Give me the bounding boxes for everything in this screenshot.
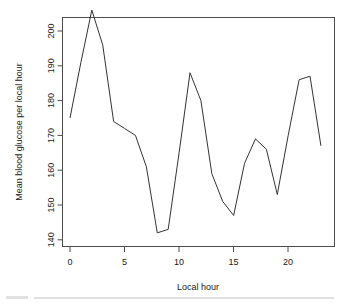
x-tick-label-20: 20 xyxy=(283,257,293,267)
x-tick-label-0: 0 xyxy=(67,257,72,267)
x-tick-label-5: 5 xyxy=(122,257,127,267)
chart-svg: 200 190 180 170 160 150 140 0 5 10 15 20… xyxy=(0,0,345,304)
x-tick-label-10: 10 xyxy=(174,257,184,267)
y-tick-label-180: 180 xyxy=(46,93,56,108)
y-tick-label-150: 150 xyxy=(46,197,56,212)
y-tick-label-190: 190 xyxy=(46,58,56,73)
scan-artifact-line xyxy=(34,297,334,299)
x-tick-label-15: 15 xyxy=(228,257,238,267)
chart-figure: 200 190 180 170 160 150 140 0 5 10 15 20… xyxy=(0,0,345,304)
y-tick-label-140: 140 xyxy=(46,232,56,247)
y-axis-title: Mean blood glucose per local hour xyxy=(14,63,24,201)
y-tick-label-200: 200 xyxy=(46,23,56,38)
y-tick-label-170: 170 xyxy=(46,128,56,143)
chart-background xyxy=(0,0,345,304)
y-tick-label-160: 160 xyxy=(46,163,56,178)
x-axis-title: Local hour xyxy=(177,282,219,292)
scan-artifact xyxy=(6,296,28,299)
